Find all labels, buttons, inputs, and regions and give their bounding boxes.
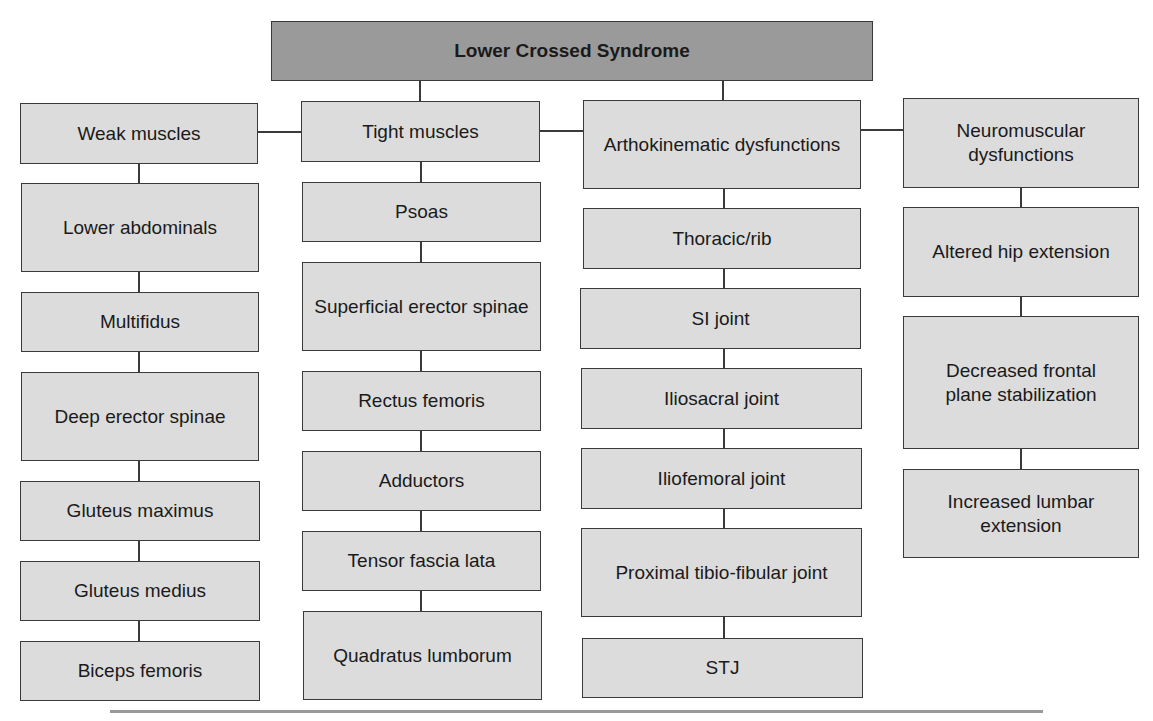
connector <box>723 348 725 370</box>
connector <box>138 540 140 562</box>
connector <box>420 590 422 612</box>
connector <box>723 268 725 290</box>
node-increased-lumbar-extension: Increased lumbar extension <box>903 469 1139 558</box>
node-rectus-femoris: Rectus femoris <box>302 371 541 431</box>
node-iliofemoral-joint: Iliofemoral joint <box>581 448 862 509</box>
connector <box>723 188 725 210</box>
node-stj: STJ <box>582 638 863 698</box>
connector <box>420 510 422 532</box>
node-superficial-erector-spinae: Superficial erector spinae <box>302 262 541 351</box>
connector <box>420 241 422 263</box>
header-arthokinematic-dysfunctions: Arthokinematic dysfunctions <box>583 100 861 189</box>
node-quadratus-lumborum: Quadratus lumborum <box>303 611 542 700</box>
connector <box>723 616 725 638</box>
node-proximal-tibio-fibular-joint: Proximal tibio-fibular joint <box>581 528 862 617</box>
connector <box>138 271 140 293</box>
node-si-joint: SI joint <box>580 288 861 349</box>
node-gluteus-maximus: Gluteus maximus <box>20 481 260 541</box>
header-weak-muscles: Weak muscles <box>20 103 258 164</box>
connector <box>420 430 422 452</box>
header-neuromuscular-dysfunctions: Neuromuscular dysfunctions <box>903 98 1139 188</box>
connector <box>138 620 140 642</box>
connector <box>1020 448 1022 470</box>
node-tensor-fascia-lata: Tensor fascia lata <box>302 531 541 591</box>
node-multifidus: Multifidus <box>21 292 259 352</box>
connector <box>138 163 140 185</box>
node-adductors: Adductors <box>302 451 541 511</box>
node-deep-erector-spinae: Deep erector spinae <box>21 372 259 461</box>
bottom-rule <box>110 710 1043 713</box>
connector <box>1020 296 1022 318</box>
header-tight-muscles: Tight muscles <box>301 101 540 162</box>
node-altered-hip-extension: Altered hip extension <box>903 207 1139 297</box>
connector <box>540 130 584 132</box>
node-decreased-frontal-plane-stabilization: Decreased frontal plane stabilization <box>903 316 1139 449</box>
node-psoas: Psoas <box>302 182 541 242</box>
node-lower-abdominals: Lower abdominals <box>21 183 259 272</box>
connector <box>257 131 301 133</box>
connector <box>723 428 725 450</box>
connector <box>723 508 725 530</box>
connector <box>419 81 421 103</box>
node-thoracic-rib: Thoracic/rib <box>583 208 861 269</box>
connector <box>1020 187 1022 209</box>
node-gluteus-medius: Gluteus medius <box>20 561 260 621</box>
connector <box>420 161 422 183</box>
node-biceps-femoris: Biceps femoris <box>20 641 260 701</box>
connector <box>860 129 904 131</box>
connector <box>420 350 422 372</box>
connector <box>138 460 140 482</box>
connector <box>138 351 140 373</box>
diagram-title: Lower Crossed Syndrome <box>271 21 873 81</box>
connector <box>722 79 724 101</box>
node-iliosacral-joint: Iliosacral joint <box>581 368 862 429</box>
